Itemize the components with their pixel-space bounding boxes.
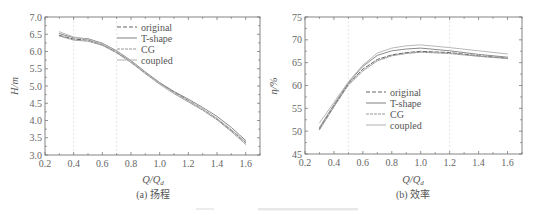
panel-caption: (b) 效率 [396, 188, 430, 201]
y-tick-label: 6.0 [30, 46, 43, 57]
x-tick-label: 0.6 [357, 157, 370, 168]
panel-caption: (a) 扬程 [136, 188, 170, 201]
y-tick-label: 75 [292, 12, 302, 23]
legend-label: T-shape [390, 98, 422, 109]
x-tick-label: 0.8 [125, 158, 138, 169]
x-tick-label: 1.4 [472, 157, 485, 168]
x-tick-label: 0.6 [96, 158, 109, 169]
legend-label: original [141, 22, 172, 33]
y-tick-label: 3.0 [30, 150, 43, 161]
y-tick-label: 70 [292, 34, 302, 45]
y-axis-label: H/m [9, 77, 20, 97]
y-tick-label: 6.5 [30, 29, 43, 40]
x-tick-label: 1.6 [239, 158, 252, 169]
y-tick-label: 7.0 [30, 12, 43, 23]
legend-label: original [390, 87, 421, 98]
legend-label: coupled [390, 120, 422, 131]
x-tick-label: 0.8 [386, 157, 399, 168]
legend-label: coupled [141, 55, 173, 66]
legend-label: CG [390, 109, 404, 120]
y-tick-label: 65 [292, 57, 302, 68]
figure: 0.20.40.60.81.01.21.41.63.03.54.04.55.05… [0, 0, 534, 215]
x-tick-label: 1.0 [153, 158, 166, 169]
legend-label: CG [141, 44, 155, 55]
x-axis-label: Q/Qd [142, 174, 164, 187]
y-tick-label: 4.0 [30, 115, 43, 126]
y-tick-label: 45 [292, 149, 302, 160]
y-tick-label: 55 [292, 103, 302, 114]
legend: originalT-shapeCGcoupled [366, 87, 422, 131]
y-tick-label: 4.5 [30, 98, 43, 109]
y-tick-label: 3.5 [30, 132, 43, 143]
x-axis-label: Q/Qd [402, 174, 424, 187]
y-axis-label: η/% [268, 77, 279, 94]
x-tick-label: 1.6 [501, 157, 514, 168]
figure-caption-faint [196, 208, 358, 211]
y-tick-label: 50 [292, 126, 302, 137]
head-chart: 0.20.40.60.81.01.21.41.63.03.54.04.55.05… [9, 12, 260, 202]
x-tick-label: 1.4 [211, 158, 224, 169]
x-tick-label: 0.4 [328, 157, 341, 168]
legend-label: T-shape [141, 33, 173, 44]
y-tick-label: 60 [292, 80, 302, 91]
x-tick-label: 1.2 [182, 158, 195, 169]
x-tick-label: 1.2 [443, 157, 456, 168]
y-tick-label: 5.0 [30, 81, 43, 92]
x-tick-label: 1.0 [414, 157, 427, 168]
y-tick-label: 5.5 [30, 63, 43, 74]
plot-frame [305, 17, 522, 154]
efficiency-chart: 0.20.40.60.81.01.21.41.645505560657075 o… [268, 12, 522, 202]
x-tick-label: 0.4 [67, 158, 80, 169]
